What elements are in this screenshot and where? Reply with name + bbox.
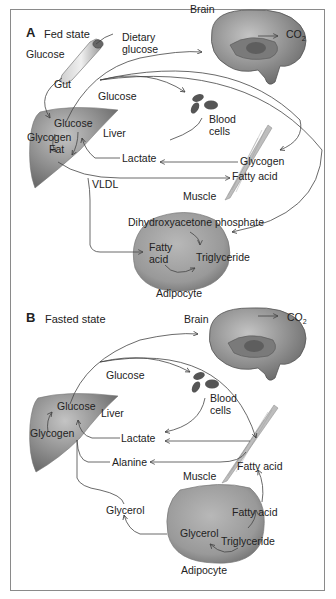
panel-a-title: Fed state	[44, 28, 90, 40]
label-adipo-fatty-1: Fatty	[149, 241, 172, 253]
label-brain-a: Brain	[190, 3, 215, 15]
label-liver-glycogen-b: Glycogen	[30, 427, 74, 439]
label-liver-glycogen-a: Glycogen	[27, 131, 71, 143]
label-brain-b: Brain	[184, 313, 209, 325]
label-triglyceride-b: Triglyceride	[221, 535, 275, 547]
label-liver-glucose-b: Glucose	[57, 400, 96, 412]
label-glucose-gut: Glucose	[26, 48, 65, 60]
label-lactate-b: Lactate	[121, 432, 155, 444]
label-liver-glucose-a: Glucose	[54, 117, 93, 129]
brain-shape-a	[211, 10, 306, 84]
blood-cells-shape-b	[190, 371, 219, 394]
label-adipo-glycerol: Glycerol	[180, 527, 219, 539]
label-muscle-a: Muscle	[183, 190, 216, 202]
label-glucose-flow-b: Glucose	[106, 369, 145, 381]
panel-b-letter: B	[26, 312, 35, 324]
label-liver-a: Liver	[103, 127, 126, 139]
label-co2-b: CO2	[287, 311, 307, 328]
label-gut: Gut	[54, 78, 71, 90]
label-co2-a: CO2	[286, 28, 306, 45]
label-dhap: Dihydroxyacetone phosphate	[128, 216, 264, 228]
label-lactate-a: Lactate	[122, 152, 156, 164]
label-blood-cells-b-2: cells	[210, 404, 231, 416]
adipocyte-shape-b	[167, 484, 264, 563]
label-blood-cells-b-1: Blood	[210, 392, 237, 404]
label-alanine: Alanine	[112, 456, 147, 468]
label-dietary-1: Dietary	[122, 31, 155, 43]
label-muscle-fatty-acid-b: Fatty acid	[237, 460, 283, 472]
blood-cells-shape-a	[189, 93, 218, 115]
diagram-graphics	[0, 0, 336, 599]
label-glycerol-out: Glycerol	[106, 504, 145, 516]
label-adipocyte-a: Adipocyte	[156, 287, 202, 299]
label-muscle-b: Muscle	[183, 470, 216, 482]
panel-a-letter: A	[26, 27, 35, 39]
label-adipo-fatty-acid-b: Fatty acid	[232, 506, 278, 518]
label-blood-cells-a-1: Blood	[209, 113, 236, 125]
panel-b-title: Fasted state	[45, 313, 106, 325]
label-liver-b: Liver	[101, 407, 124, 419]
label-adipocyte-b: Adipocyte	[181, 564, 227, 576]
label-muscle-glycogen-a: Glycogen	[240, 155, 284, 167]
label-glucose-flow-a: Glucose	[98, 90, 137, 102]
label-blood-cells-a-2: cells	[209, 125, 230, 137]
label-vldl: VLDL	[92, 178, 118, 190]
label-triglyceride-a: Triglyceride	[196, 251, 250, 263]
label-muscle-fatty-acid-a: Fatty acid	[232, 170, 278, 182]
label-dietary-2: glucose	[122, 43, 158, 55]
label-liver-fat-a: Fat	[49, 143, 64, 155]
label-adipo-fatty-2: acid	[149, 253, 168, 265]
